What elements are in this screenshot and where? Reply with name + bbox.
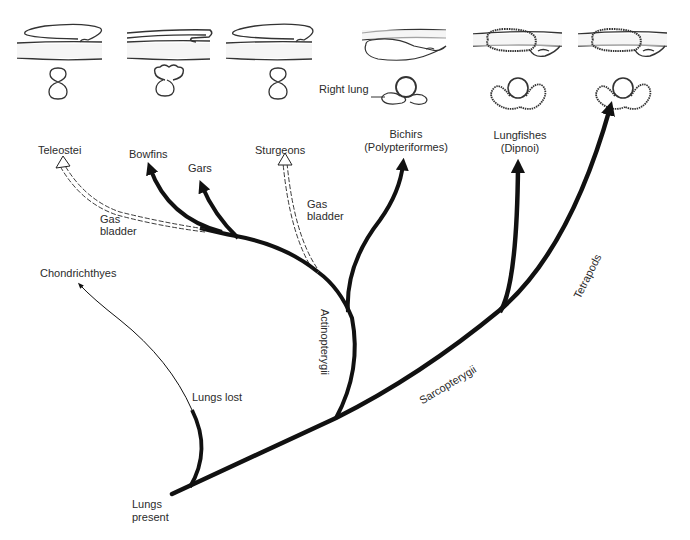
label-lungfishes-name: Lungfishes	[490, 129, 550, 142]
label-teleostei: Teleostei	[38, 144, 81, 157]
label-lungfishes-order: (Dipnoi)	[490, 142, 550, 155]
branch-chondrichthyes-lunged	[190, 410, 202, 487]
label-lungs-present-line1: Lungs	[132, 498, 169, 511]
label-bichirs-name: Bichirs	[361, 128, 451, 141]
branch-bowfins	[150, 168, 222, 232]
label-bichirs-order: (Polypteriformes)	[361, 141, 451, 154]
label-actinopterygii: Actinopterygii	[318, 309, 331, 375]
label-chondrichthyes: Chondrichthyes	[40, 267, 116, 280]
anatomy-bowfins	[127, 30, 212, 96]
label-lungs-lost: Lungs lost	[192, 391, 242, 404]
label-gas-bladder-line1: Gas	[307, 198, 344, 210]
label-bichirs: Bichirs (Polypteriformes)	[361, 128, 451, 154]
label-sturgeons: Sturgeons	[255, 144, 305, 157]
branch-bichirs	[348, 164, 403, 312]
label-gas-bladder-line2: bladder	[307, 210, 344, 222]
label-gas-bladder-line1: Gas	[100, 213, 137, 225]
branch-lungfishes	[500, 166, 518, 312]
branch-neopterygii	[200, 228, 318, 272]
label-gars: Gars	[188, 162, 212, 175]
anatomy-sturgeons	[226, 24, 313, 99]
label-lungs-present-line2: present	[132, 511, 169, 524]
teleostei-open-arrow-icon	[56, 156, 70, 168]
label-gas-bladder-teleostei: Gas bladder	[100, 213, 137, 237]
branch-chondrichthyes	[80, 285, 192, 410]
anatomy-bichirs	[362, 29, 446, 104]
label-lungs-present: Lungs present	[132, 498, 169, 524]
label-lungfishes: Lungfishes (Dipnoi)	[490, 129, 550, 155]
anatomy-lungfishes	[473, 29, 562, 109]
label-gas-bladder-sturgeons: Gas bladder	[307, 198, 344, 222]
anatomy-teleostei	[17, 24, 102, 99]
label-gas-bladder-line2: bladder	[100, 225, 137, 237]
label-bowfins: Bowfins	[129, 148, 168, 161]
label-right-lung: Right lung	[319, 83, 369, 96]
anatomy-tetrapods	[578, 29, 667, 109]
